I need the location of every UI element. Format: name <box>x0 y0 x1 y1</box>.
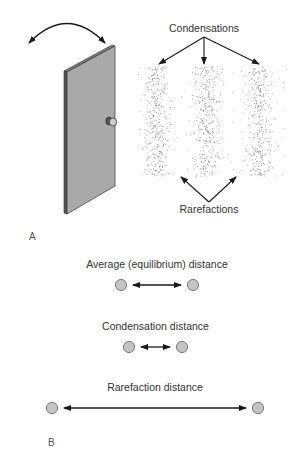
distance-row: Rarefaction distance <box>46 381 263 414</box>
distance-row: Condensation distance <box>102 320 209 353</box>
rarefaction-pointer-arrows <box>181 177 236 202</box>
condensations-label: Condensations <box>169 22 239 34</box>
door-knob-icon <box>106 117 117 126</box>
sound-wave-diagram: Condensations Rarefactions A Average (eq… <box>0 0 288 456</box>
panel-b-label: B <box>48 437 55 448</box>
door-face <box>67 46 115 214</box>
distance-label: Rarefaction distance <box>107 381 203 393</box>
arrow-icon <box>204 37 259 64</box>
panel-b: Average (equilibrium) distanceCondensati… <box>46 258 263 448</box>
air-molecules-stipple <box>138 66 287 177</box>
particle-circle-icon <box>252 402 263 413</box>
panel-a: Condensations Rarefactions A <box>29 22 287 242</box>
arrow-icon <box>159 37 204 64</box>
distance-row: Average (equilibrium) distance <box>86 258 228 291</box>
particle-circle-icon <box>176 341 187 352</box>
double-headed-curved-arrow-icon <box>29 24 105 44</box>
panel-a-label: A <box>29 231 36 242</box>
particle-circle-icon <box>123 341 134 352</box>
distance-rows: Average (equilibrium) distanceCondensati… <box>46 258 263 414</box>
particle-circle-icon <box>46 402 57 413</box>
door-side-edge <box>64 71 67 214</box>
arrow-icon <box>209 177 236 202</box>
door-icon <box>64 45 117 214</box>
arrow-icon <box>181 177 209 202</box>
distance-label: Average (equilibrium) distance <box>86 258 228 270</box>
rarefactions-label: Rarefactions <box>180 203 239 215</box>
condensation-pointer-arrows <box>159 37 259 64</box>
distance-label: Condensation distance <box>102 320 209 332</box>
particle-circle-icon <box>115 279 126 290</box>
particle-circle-icon <box>187 279 198 290</box>
